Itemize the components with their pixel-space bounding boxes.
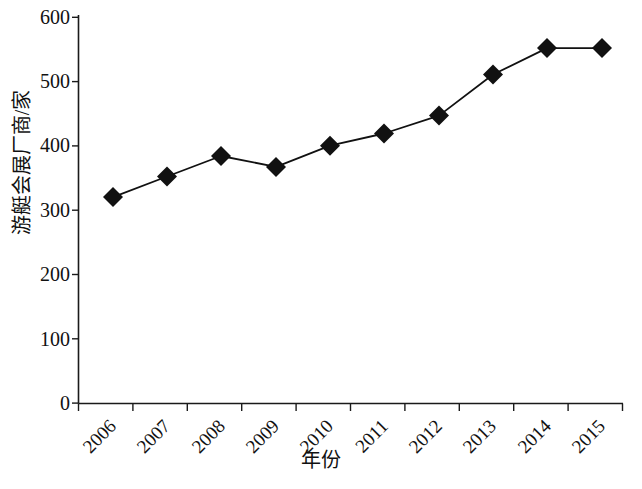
x-axis-tick-labels: 2006 2007 2008 2009 2010 2011 2012 2013 …	[0, 0, 642, 489]
line-chart-figure: 游艇会展厂商/家 600 500 400 300 200 100 0	[0, 0, 642, 489]
x-axis-title: 年份	[0, 444, 642, 473]
